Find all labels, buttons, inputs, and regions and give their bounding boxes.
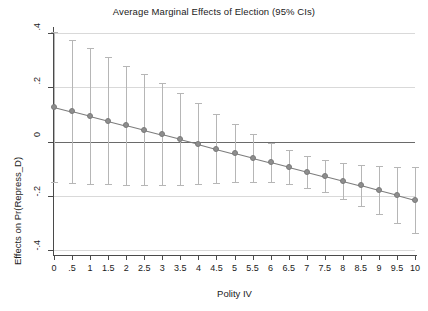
- confidence-interval-cap: [250, 182, 257, 183]
- gridline: [54, 250, 415, 251]
- x-axis-tick: [144, 255, 145, 260]
- data-point-marker: [69, 108, 75, 114]
- data-point-marker: [141, 127, 147, 133]
- chart-title: Average Marginal Effects of Election (95…: [0, 6, 428, 17]
- x-axis-tick: [235, 255, 236, 260]
- data-point-marker: [358, 182, 364, 188]
- confidence-interval-cap: [340, 163, 347, 164]
- x-axis-tick: [379, 255, 380, 260]
- y-axis-label: Effects on Pr(Repress_D): [12, 5, 23, 265]
- confidence-interval-cap: [141, 185, 148, 186]
- data-point-marker: [87, 113, 93, 119]
- confidence-interval-cap: [159, 185, 166, 186]
- confidence-interval-cap: [232, 182, 239, 183]
- x-axis-tick: [90, 255, 91, 260]
- x-axis-tick: [397, 255, 398, 260]
- x-axis-label: Polity IV: [54, 288, 415, 299]
- data-point-marker: [51, 104, 57, 110]
- confidence-interval-cap: [268, 143, 275, 144]
- x-axis-tick: [415, 255, 416, 260]
- confidence-interval-cap: [394, 223, 401, 224]
- data-point-marker: [159, 131, 165, 137]
- confidence-interval-cap: [123, 185, 130, 186]
- data-point-marker: [123, 122, 129, 128]
- confidence-interval-cap: [304, 188, 311, 189]
- y-axis-tick-label: .4: [32, 23, 42, 41]
- data-point-marker: [394, 192, 400, 198]
- confidence-interval-cap: [286, 150, 293, 151]
- confidence-interval-cap: [250, 134, 257, 135]
- confidence-interval-cap: [159, 83, 166, 84]
- confidence-interval-cap: [141, 74, 148, 75]
- confidence-interval-cap: [304, 156, 311, 157]
- x-axis-tick: [307, 255, 308, 260]
- data-point-marker: [322, 173, 328, 179]
- confidence-interval-cap: [177, 93, 184, 94]
- x-axis-tick: [343, 255, 344, 260]
- x-axis-tick: [108, 255, 109, 260]
- data-point-marker: [232, 150, 238, 156]
- x-axis-tick: [325, 255, 326, 260]
- confidence-interval-cap: [195, 184, 202, 185]
- y-axis-tick: [48, 250, 54, 251]
- confidence-interval-cap: [213, 114, 220, 115]
- confidence-interval-cap: [87, 184, 94, 185]
- plot-area: [54, 33, 415, 250]
- x-axis-tick: [198, 255, 199, 260]
- x-axis-tick: [289, 255, 290, 260]
- chart-figure: Average Marginal Effects of Election (95…: [0, 0, 428, 311]
- x-axis-tick: [72, 255, 73, 260]
- confidence-interval-cap: [394, 167, 401, 168]
- data-point-marker: [105, 118, 111, 124]
- x-axis-tick: [126, 255, 127, 260]
- confidence-interval-cap: [340, 199, 347, 200]
- confidence-interval-cap: [376, 214, 383, 215]
- x-axis-tick: [253, 255, 254, 260]
- y-axis-tick: [48, 87, 54, 88]
- y-axis-tick-label: -.4: [32, 240, 42, 258]
- x-axis-tick: [162, 255, 163, 260]
- confidence-interval-cap: [412, 167, 419, 168]
- confidence-interval-cap: [87, 48, 94, 49]
- confidence-interval-cap: [69, 40, 76, 41]
- y-axis-label-holder: Effects on Pr(Repress_D): [12, 265, 13, 266]
- confidence-interval-cap: [376, 166, 383, 167]
- data-point-marker: [286, 164, 292, 170]
- y-axis-tick-label: -.2: [32, 186, 42, 204]
- y-axis-tick: [48, 196, 54, 197]
- data-point-marker: [340, 178, 346, 184]
- confidence-interval-cap: [213, 183, 220, 184]
- y-axis-tick-label: 0: [32, 132, 42, 150]
- confidence-interval-cap: [358, 165, 365, 166]
- y-axis-tick: [48, 142, 54, 143]
- y-axis-tick-label: .2: [32, 77, 42, 95]
- y-axis-tick: [48, 33, 54, 34]
- confidence-interval-cap: [412, 233, 419, 234]
- confidence-interval-cap: [286, 184, 293, 185]
- x-axis-tick: [216, 255, 217, 260]
- data-point-marker: [412, 197, 418, 203]
- confidence-interval-cap: [195, 103, 202, 104]
- data-point-marker: [376, 187, 382, 193]
- confidence-interval-cap: [358, 206, 365, 207]
- confidence-interval-cap: [322, 160, 329, 161]
- confidence-interval-cap: [123, 66, 130, 67]
- confidence-interval-cap: [177, 185, 184, 186]
- confidence-interval-cap: [69, 183, 76, 184]
- confidence-interval-cap: [105, 57, 112, 58]
- confidence-interval-cap: [322, 192, 329, 193]
- confidence-interval-cap: [232, 124, 239, 125]
- data-point-marker: [304, 169, 310, 175]
- confidence-interval-cap: [105, 184, 112, 185]
- confidence-interval-cap: [268, 182, 275, 183]
- data-point-marker: [268, 159, 274, 165]
- x-axis-tick: [54, 255, 55, 260]
- confidence-interval-cap: [51, 182, 58, 183]
- x-axis-tick-label: 10: [401, 263, 428, 273]
- gridline: [54, 33, 415, 34]
- x-axis-tick: [271, 255, 272, 260]
- x-axis-tick: [180, 255, 181, 260]
- data-point-marker: [250, 155, 256, 161]
- x-axis-tick: [361, 255, 362, 260]
